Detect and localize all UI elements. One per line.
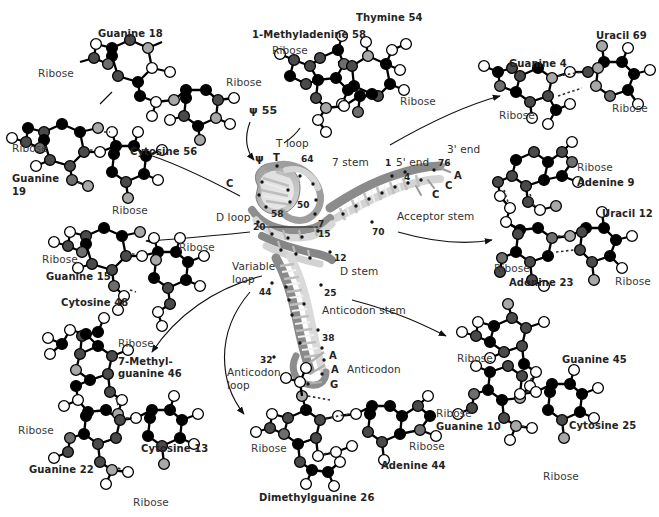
guanine15-cytosine48-label-cytosine-48: Cytosine 48	[61, 297, 128, 309]
adenine44-dimethylguanine26-label-adenine-44: Adenine 44	[381, 460, 446, 472]
label-acceptor-stem: Acceptor stem	[397, 211, 474, 223]
guanine15-cytosine48-label-ribose: Ribose	[179, 242, 215, 254]
label-4: 4	[404, 172, 410, 184]
guanine45-guanine10-cytosine25-label-cytosine-25: Cytosine 25	[569, 420, 636, 432]
guanine4-uracil69-label-guanine-4: Guanine 4	[509, 58, 567, 70]
methyladenine58-thymine54-label-1-methyladenine-58: 1-Methyladenine 58	[252, 29, 366, 41]
label-c: C	[445, 180, 452, 192]
guanine19-cytosine56-label-19: 19	[12, 186, 26, 198]
methyladenine58-thymine54-label-ribose: Ribose	[272, 45, 308, 57]
methylguanine46-cytosine13-guanine22-label-guanine-22: Guanine 22	[29, 464, 94, 476]
label-variable: Variable	[232, 261, 275, 273]
label-25: 25	[324, 288, 337, 300]
adenine44-dimethylguanine26-label-ribose: Ribose	[409, 441, 445, 453]
methylguanine46-cytosine13-guanine22-label-cytosine-13: Cytosine 13	[141, 443, 208, 455]
guanine18-psi55-label-55: ψ 55	[249, 105, 277, 117]
label-anticodon: Anticodon	[347, 364, 401, 376]
label-a: A	[331, 364, 339, 376]
guanine18-psi55-label-guanine-18: Guanine 18	[98, 28, 163, 40]
guanine19-cytosine56-label-guanine: Guanine	[12, 173, 59, 185]
guanine15-cytosine48-label-ribose: Ribose	[42, 254, 78, 266]
label-50: 50	[297, 200, 310, 212]
label-1: 1	[385, 158, 391, 170]
methylguanine46-cytosine13-guanine22-label-7-methyl: 7-Methyl-	[118, 356, 173, 368]
molecule-adenine44-dimethylguanine26	[251, 363, 442, 492]
guanine4-uracil69-label-uracil-69: Uracil 69	[596, 30, 647, 42]
guanine45-guanine10-cytosine25-label-ribose: Ribose	[543, 471, 579, 483]
label-c: C	[432, 189, 439, 201]
label-t: T	[273, 152, 280, 164]
label-64: 64	[301, 154, 314, 166]
label-38: 38	[322, 333, 335, 345]
guanine45-guanine10-cytosine25-label-ribose: Ribose	[457, 353, 493, 365]
label-a: A	[329, 350, 337, 362]
adenine44-dimethylguanine26-label-ribose: Ribose	[251, 443, 287, 455]
methylguanine46-cytosine13-guanine22-label-ribose: Ribose	[118, 338, 154, 350]
methylguanine46-cytosine13-guanine22-label-ribose: Ribose	[18, 425, 54, 437]
label-anticodon-stem: Anticodon stem	[322, 305, 406, 317]
label-loop: loop	[232, 274, 255, 286]
label-5-end: 5' end	[396, 157, 429, 169]
guanine4-uracil69-label-ribose: Ribose	[499, 110, 535, 122]
adenine9-uracil12-adenine23-label-ribose: Ribose	[494, 263, 530, 275]
label-20: 20	[253, 222, 266, 234]
label-15: 15	[318, 229, 331, 241]
label-c: C	[226, 178, 233, 190]
guanine19-cytosine56-label-ribose: Ribose	[112, 205, 148, 217]
label-3-end: 3' end	[447, 144, 480, 156]
label-12: 12	[334, 253, 347, 265]
methyladenine58-thymine54-label-ribose: Ribose	[400, 96, 436, 108]
guanine45-guanine10-cytosine25-label-ribose: Ribose	[436, 408, 472, 420]
adenine9-uracil12-adenine23-label-ribose: Ribose	[615, 276, 651, 288]
methylguanine46-cytosine13-guanine22-label-guanine-46: guanine 46	[118, 368, 182, 380]
label-anticodon: Anticodon	[227, 367, 281, 379]
adenine9-uracil12-adenine23-label-adenine-9: Adenine 9	[577, 177, 634, 189]
adenine9-uracil12-adenine23-label-uracil-12: Uracil 12	[602, 208, 653, 220]
label-a: A	[454, 170, 462, 182]
adenine9-uracil12-adenine23-label-adenine-23: Adenine 23	[509, 277, 574, 289]
label-d-loop: D loop	[216, 212, 250, 224]
guanine18-psi55-label-ribose: Ribose	[226, 77, 262, 89]
guanine18-psi55-label-ribose: Ribose	[38, 68, 74, 80]
guanine15-cytosine48-label-guanine-15: Guanine 15	[46, 271, 111, 283]
diagram-graphics	[0, 0, 659, 517]
label-32: 32	[260, 355, 273, 367]
guanine4-uracil69-label-ribose: Ribose	[612, 103, 648, 115]
adenine44-dimethylguanine26-label-dimethylguanine-26: Dimethylguanine 26	[259, 492, 374, 504]
methyladenine58-thymine54-label-thymine-54: Thymine 54	[356, 12, 423, 24]
methylguanine46-cytosine13-guanine22-label-ribose: Ribose	[133, 497, 169, 509]
guanine19-cytosine56-label-ribose: Ribose	[12, 143, 48, 155]
label-g: G	[330, 379, 338, 391]
guanine45-guanine10-cytosine25-label-guanine-45: Guanine 45	[562, 354, 627, 366]
molecule-guanine19-cytosine56	[7, 119, 168, 204]
label-44: 44	[259, 287, 272, 299]
guanine19-cytosine56-label-cytosine-56: Cytosine 56	[130, 146, 197, 158]
label-70: 70	[372, 227, 385, 239]
label-label: ψ	[255, 153, 264, 165]
label-t-loop: T loop	[276, 138, 309, 150]
label-d-stem: D stem	[340, 266, 378, 278]
adenine9-uracil12-adenine23-label-ribose: Ribose	[577, 162, 613, 174]
figure-canvas: Guanine 18RiboseRiboseψ 551-Methyladenin…	[0, 0, 659, 517]
guanine45-guanine10-cytosine25-label-guanine-10: Guanine 10	[436, 421, 501, 433]
label-58: 58	[271, 209, 284, 221]
label-7-stem: 7 stem	[332, 157, 369, 169]
label-loop: loop	[227, 380, 250, 392]
label-76: 76	[438, 158, 451, 170]
